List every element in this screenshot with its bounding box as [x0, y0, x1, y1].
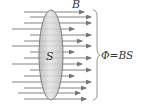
- magnetic-flux-diagram: B S Φ=BS: [0, 0, 145, 110]
- brace-icon: [93, 10, 100, 100]
- flux-formula: Φ=BS: [101, 49, 133, 61]
- surface-label-s: S: [46, 50, 54, 63]
- field-label-b: B: [71, 0, 80, 11]
